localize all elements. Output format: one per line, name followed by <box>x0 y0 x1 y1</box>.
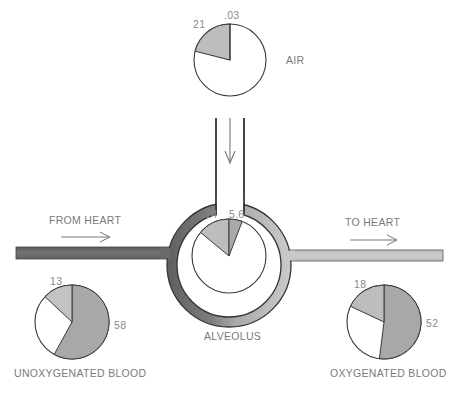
air-co2-value: .03 <box>224 10 240 21</box>
air-label: AIR <box>286 55 304 66</box>
oxygenated-vessel <box>284 250 443 261</box>
to-heart-label: TO HEART <box>345 217 400 228</box>
air-pie <box>194 24 266 96</box>
from-heart-label: FROM HEART <box>49 215 121 226</box>
unoxygenated-blood-label: UNOXYGENATED BLOOD <box>14 368 146 379</box>
air-o2-value: 21 <box>193 19 205 30</box>
alveolus-label: ALVEOLUS <box>204 331 261 342</box>
alveolus-o2-value: 14 <box>205 209 217 220</box>
to-heart-arrow-icon <box>350 235 397 245</box>
oxygenated-blood-label: OXYGENATED BLOOD <box>330 368 447 379</box>
air-flow-arrow-icon <box>225 118 235 163</box>
oxygenated-co2-value: 52 <box>426 318 438 329</box>
alveolus-co2-value: 5.6 <box>229 209 245 220</box>
unoxygenated-o2-value: 13 <box>50 276 62 287</box>
unoxygenated-vessel <box>16 247 176 259</box>
oxygenated-o2-value: 18 <box>354 279 366 290</box>
from-heart-arrow-icon <box>61 232 110 242</box>
unoxygenated-co2-value: 58 <box>114 320 126 331</box>
alveolus-pie <box>192 219 266 293</box>
oxygenated-blood-pie <box>347 285 421 359</box>
unoxygenated-blood-pie <box>35 285 109 359</box>
